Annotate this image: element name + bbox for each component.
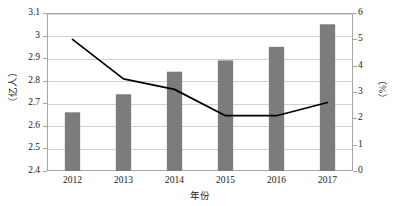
right-axis-tick-label: 2 [358, 113, 378, 123]
bar-series [65, 24, 335, 171]
x-axis-tick-label: 2013 [99, 175, 149, 185]
line-path [73, 39, 328, 115]
right-axis-tick-label: 5 [358, 34, 378, 44]
x-axis-title: 年份 [0, 188, 400, 202]
right-axis-tick-mark [353, 92, 357, 93]
chart-container: （亿人） （%） 年份 2.42.52.62.72.82.933.1012345… [0, 0, 400, 206]
right-axis-tick-mark [353, 39, 357, 40]
left-axis-tick-mark [43, 171, 47, 172]
x-axis-tick-label: 2015 [201, 175, 251, 185]
left-axis-tick-label: 3 [14, 31, 40, 41]
bar [116, 94, 131, 171]
left-axis-tick-label: 2.9 [14, 53, 40, 63]
x-axis-tick-label: 2016 [252, 175, 302, 185]
left-axis-tick-mark [43, 148, 47, 149]
bar [167, 72, 182, 171]
x-axis-tick-label: 2014 [150, 175, 200, 185]
left-axis-tick-label: 2.8 [14, 76, 40, 86]
x-axis-tick-label: 2017 [303, 175, 353, 185]
left-axis-tick-label: 3.1 [14, 8, 40, 18]
left-axis-tick-label: 2.6 [14, 121, 40, 131]
series-layer [47, 13, 353, 171]
right-axis-tick-mark [353, 118, 357, 119]
left-axis-tick-mark [43, 81, 47, 82]
right-axis-tick-mark [353, 13, 357, 14]
right-axis-tick-label: 3 [358, 87, 378, 97]
right-axis-tick-label: 4 [358, 61, 378, 71]
right-axis-tick-mark [353, 145, 357, 146]
x-axis-tick-label: 2012 [48, 175, 98, 185]
bar [65, 112, 80, 171]
right-axis-tick-mark [353, 66, 357, 67]
left-axis-tick-label: 2.4 [14, 166, 40, 176]
right-axis-tick-label: 0 [358, 166, 378, 176]
bar [320, 24, 335, 171]
line-series [73, 39, 328, 115]
left-axis-tick-label: 2.7 [14, 98, 40, 108]
right-axis-tick-label: 1 [358, 140, 378, 150]
right-axis-tick-label: 6 [358, 8, 378, 18]
left-axis-tick-mark [43, 58, 47, 59]
left-axis-tick-mark [43, 13, 47, 14]
left-axis-tick-mark [43, 126, 47, 127]
left-axis-tick-mark [43, 103, 47, 104]
left-axis-tick-mark [43, 36, 47, 37]
right-axis-tick-mark [353, 171, 357, 172]
bar [269, 47, 284, 171]
left-axis-tick-label: 2.5 [14, 143, 40, 153]
